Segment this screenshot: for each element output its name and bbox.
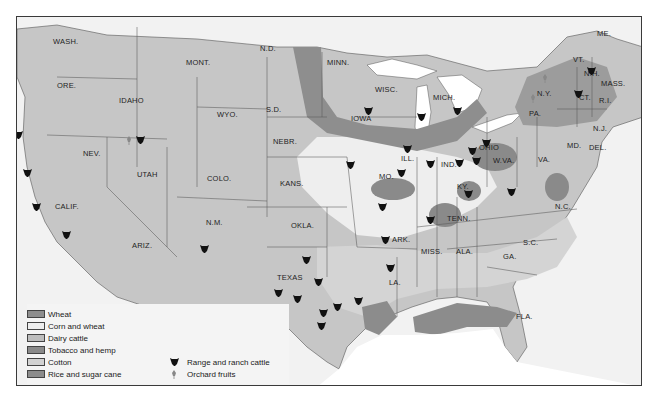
wheat-swatch: [27, 310, 45, 318]
cattle-head-icon: [62, 225, 71, 233]
state-label: MO.: [379, 172, 394, 181]
gulf-of-mexico: [317, 329, 642, 386]
cattle-head-icon: [32, 197, 41, 205]
tobacco-va: [545, 173, 569, 201]
legend-label: Rice and sugar cane: [48, 370, 121, 379]
cattle-head-icon: [354, 291, 363, 299]
cattle-head-icon: [293, 289, 302, 297]
state-label: OKLA.: [291, 221, 314, 230]
cattle-head-icon: [317, 316, 326, 324]
state-label: N.C.: [555, 202, 571, 211]
map-legend: Wheat Corn and wheat Dairy cattle Tobacc…: [27, 304, 289, 384]
state-label: MD.: [567, 141, 581, 150]
state-label: N.J.: [593, 124, 607, 133]
cattle-head-icon: [346, 155, 355, 163]
state-label: PA.: [529, 109, 541, 118]
cattle-head-icon: [200, 239, 209, 247]
state-label: WYO.: [217, 110, 238, 119]
fruit-tree-icon: [530, 89, 539, 97]
state-label: R.I.: [599, 96, 611, 105]
legend-label: Tobacco and hemp: [48, 346, 116, 355]
cattle-head-icon: [23, 163, 32, 171]
legend-item-range-cattle: Range and ranch cattle: [167, 356, 270, 368]
legend-item-corn-and-wheat: Corn and wheat: [27, 320, 104, 332]
state-label: MASS.: [601, 79, 625, 88]
cattle-head-icon: [381, 230, 390, 238]
legend-item-tobacco-and-hemp: Tobacco and hemp: [27, 344, 116, 356]
cattle-head-icon: [574, 84, 583, 92]
cattle-head-icon: [378, 197, 387, 205]
state-label: GA.: [503, 252, 517, 261]
cattle-head-icon: [417, 107, 426, 115]
state-label: MINN.: [327, 58, 349, 67]
legend-label: Range and ranch cattle: [187, 358, 270, 367]
legend-item-rice-and-sugar-cane: Rice and sugar cane: [27, 368, 121, 380]
state-label: MISS.: [421, 247, 442, 256]
cattle-head-icon: [507, 182, 516, 190]
cotton-swatch: [27, 358, 45, 366]
state-label: ORE.: [57, 81, 76, 90]
cattle-head-icon: [274, 283, 283, 291]
fruit-tree-icon: [542, 69, 551, 77]
cattle-head-icon: [319, 303, 328, 311]
state-label: ARK.: [392, 235, 410, 244]
state-label: N.Y.: [537, 89, 551, 98]
state-label: N.M.: [206, 218, 223, 227]
cattle-head-icon: [386, 258, 395, 266]
cattle-head-icon: [455, 153, 464, 161]
state-label: NEBR.: [273, 137, 297, 146]
state-label: MONT.: [186, 58, 210, 67]
legend-label: Dairy cattle: [48, 334, 88, 343]
state-label: MICH.: [433, 93, 455, 102]
legend-item-dairy-cattle: Dairy cattle: [27, 332, 88, 344]
cattle-head-icon: [314, 272, 323, 280]
legend-label: Orchard fruits: [187, 370, 235, 379]
state-label: DEL.: [589, 143, 606, 152]
state-label: ILL.: [401, 154, 414, 163]
cattle-head-icon: [302, 250, 311, 258]
state-label: TEXAS: [277, 273, 303, 282]
fruit-tree-icon: [167, 370, 181, 379]
legend-label: Corn and wheat: [48, 322, 104, 331]
cattle-head-icon: [136, 130, 145, 138]
state-label: FLA.: [516, 312, 533, 321]
state-label: VA.: [538, 155, 550, 164]
cattle-head-icon: [468, 141, 477, 149]
state-label: IDAHO: [119, 96, 144, 105]
cattle-head-icon: [364, 101, 373, 109]
legend-item-orchard-fruits: Orchard fruits: [167, 368, 235, 380]
state-label: UTAH: [137, 170, 158, 179]
cattle-head-icon: [464, 184, 473, 192]
legend-item-wheat: Wheat: [27, 308, 71, 320]
state-label: TENN.: [447, 214, 471, 223]
state-label: ME.: [597, 29, 611, 38]
state-label: ALA.: [456, 247, 473, 256]
legend-item-cotton: Cotton: [27, 356, 72, 368]
cattle-head-icon: [482, 133, 491, 141]
state-label: LA.: [389, 278, 401, 287]
cattle-head-icon: [587, 61, 596, 69]
cattle-head-icon: [426, 210, 435, 218]
state-label: KANS.: [280, 179, 304, 188]
cattle-head-icon: [333, 297, 342, 305]
agriculture-map: WASH.ORE.IDAHOMONT.WYO.N.D.S.D.NEBR.MINN…: [16, 16, 642, 386]
cattle-head-icon: [426, 154, 435, 162]
cattle-head-icon: [167, 358, 181, 366]
state-label: N.D.: [260, 44, 276, 53]
fruit-tree-icon: [126, 131, 135, 139]
state-label: CALIF.: [55, 202, 79, 211]
state-label: ARIZ.: [132, 241, 152, 250]
legend-label: Cotton: [48, 358, 72, 367]
state-label: W.VA.: [493, 156, 514, 165]
state-label: IOWA: [351, 114, 372, 123]
cattle-head-icon: [397, 163, 406, 171]
state-label: S.C.: [523, 238, 538, 247]
state-label: WISC.: [375, 85, 398, 94]
state-label: S.D.: [266, 105, 281, 114]
state-label: WASH.: [53, 37, 78, 46]
corn-and-wheat-swatch: [27, 322, 45, 330]
tobacco-and-hemp-swatch: [27, 346, 45, 354]
state-label: VT.: [573, 55, 584, 64]
legend-label: Wheat: [48, 310, 71, 319]
rice-and-sugar-cane-swatch: [27, 370, 45, 378]
